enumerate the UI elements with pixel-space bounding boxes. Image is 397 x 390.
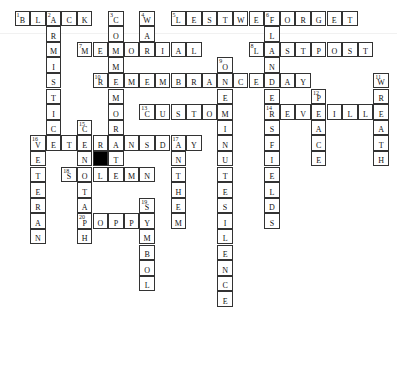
grid-cell[interactable]: N — [77, 151, 93, 167]
grid-cell[interactable]: C — [311, 135, 327, 151]
grid-cell[interactable]: E — [217, 291, 233, 307]
grid-cell[interactable]: M — [155, 73, 171, 89]
grid-cell[interactable]: E — [280, 104, 296, 120]
grid-cell[interactable]: S — [139, 135, 155, 151]
grid-cell[interactable]: S — [342, 42, 358, 58]
grid-cell[interactable]: S — [264, 120, 280, 136]
grid-cell[interactable]: 14R — [264, 104, 280, 120]
grid-cell[interactable]: O — [139, 260, 155, 276]
grid-cell[interactable]: T — [108, 151, 124, 167]
grid-cell[interactable]: I — [217, 213, 233, 229]
grid-cell[interactable]: E — [311, 151, 327, 167]
grid-cell[interactable]: N — [217, 73, 233, 89]
grid-cell[interactable]: E — [30, 182, 46, 198]
grid-cell[interactable]: E — [77, 135, 93, 151]
grid-cell[interactable]: I — [155, 42, 171, 58]
grid-cell[interactable]: L — [186, 42, 202, 58]
grid-cell[interactable]: R — [93, 135, 109, 151]
grid-cell[interactable]: T — [342, 11, 358, 27]
grid-cell[interactable]: S — [217, 198, 233, 214]
grid-cell[interactable]: O — [93, 213, 109, 229]
grid-cell[interactable]: L — [342, 104, 358, 120]
grid-cell[interactable]: N — [217, 260, 233, 276]
grid-cell[interactable]: E — [108, 73, 124, 89]
grid-cell[interactable]: 10R — [93, 73, 109, 89]
grid-cell[interactable]: 7M — [77, 42, 93, 58]
grid-cell[interactable]: 12P — [311, 89, 327, 105]
grid-cell[interactable]: U — [217, 151, 233, 167]
grid-cell[interactable]: I — [46, 104, 62, 120]
grid-cell[interactable]: 16V — [30, 135, 46, 151]
grid-cell[interactable]: Y — [295, 73, 311, 89]
grid-cell[interactable]: I — [327, 104, 343, 120]
grid-cell[interactable]: A — [373, 120, 389, 136]
grid-cell[interactable]: 5L — [171, 11, 187, 27]
grid-cell[interactable]: E — [139, 73, 155, 89]
grid-cell[interactable]: M — [46, 42, 62, 58]
grid-cell[interactable]: R — [30, 198, 46, 214]
grid-cell[interactable]: 15C — [77, 120, 93, 136]
grid-cell[interactable]: E — [171, 198, 187, 214]
grid-cell[interactable]: O — [108, 104, 124, 120]
grid-cell[interactable]: R — [108, 120, 124, 136]
grid-cell[interactable]: T — [46, 89, 62, 105]
grid-cell[interactable]: S — [171, 104, 187, 120]
grid-cell[interactable]: R — [139, 42, 155, 58]
grid-cell[interactable]: M — [108, 89, 124, 105]
grid-cell[interactable]: T — [295, 42, 311, 58]
grid-cell[interactable]: E — [217, 245, 233, 261]
grid-cell[interactable]: A — [202, 73, 218, 89]
grid-cell[interactable]: C — [233, 73, 249, 89]
grid-cell[interactable]: U — [155, 104, 171, 120]
grid-cell[interactable]: O — [202, 104, 218, 120]
grid-cell[interactable]: 6F — [264, 11, 280, 27]
grid-cell[interactable]: 4W — [139, 11, 155, 27]
grid-cell[interactable]: E — [217, 182, 233, 198]
grid-cell[interactable]: C — [46, 120, 62, 136]
grid-cell[interactable]: M — [124, 73, 140, 89]
grid-cell[interactable]: T — [217, 167, 233, 183]
grid-cell[interactable]: 20P — [77, 213, 93, 229]
grid-cell[interactable]: A — [264, 42, 280, 58]
grid-cell[interactable]: T — [61, 135, 77, 151]
grid-cell[interactable]: O — [327, 42, 343, 58]
grid-cell[interactable]: S — [202, 11, 218, 27]
grid-cell[interactable]: S — [46, 73, 62, 89]
grid-cell[interactable]: A — [77, 198, 93, 214]
grid-cell[interactable]: N — [139, 167, 155, 183]
grid-cell[interactable]: R — [46, 26, 62, 42]
grid-cell[interactable]: M — [139, 229, 155, 245]
grid-cell[interactable]: 1B — [15, 11, 31, 27]
grid-cell[interactable]: M — [108, 42, 124, 58]
grid-cell[interactable]: E — [186, 11, 202, 27]
grid-cell[interactable]: L — [358, 104, 374, 120]
grid-cell[interactable]: 8L — [249, 42, 265, 58]
grid-cell[interactable]: L — [264, 26, 280, 42]
grid-cell[interactable]: A — [139, 26, 155, 42]
grid-cell[interactable]: O — [108, 26, 124, 42]
grid-cell[interactable]: T — [373, 135, 389, 151]
grid-cell[interactable]: 9O — [217, 57, 233, 73]
grid-cell[interactable]: M — [217, 104, 233, 120]
grid-cell[interactable]: I — [46, 57, 62, 73]
grid-cell[interactable]: M — [124, 167, 140, 183]
grid-cell[interactable]: H — [373, 151, 389, 167]
grid-cell[interactable]: E — [249, 11, 265, 27]
grid-cell[interactable]: E — [46, 135, 62, 151]
grid-cell[interactable]: N — [124, 135, 140, 151]
grid-cell[interactable]: D — [155, 135, 171, 151]
grid-cell[interactable]: D — [264, 73, 280, 89]
grid-cell[interactable]: W — [233, 11, 249, 27]
grid-cell[interactable]: 17A — [171, 135, 187, 151]
grid-cell[interactable]: H — [171, 182, 187, 198]
grid-cell[interactable]: T — [186, 104, 202, 120]
grid-cell[interactable]: S — [264, 213, 280, 229]
grid-cell[interactable]: I — [264, 151, 280, 167]
grid-cell[interactable]: A — [311, 120, 327, 136]
grid-cell[interactable]: 11W — [373, 73, 389, 89]
grid-cell[interactable]: O — [124, 42, 140, 58]
grid-cell[interactable]: O — [77, 167, 93, 183]
grid-cell[interactable]: D — [264, 198, 280, 214]
grid-cell[interactable]: T — [171, 167, 187, 183]
grid-cell[interactable]: L — [30, 11, 46, 27]
